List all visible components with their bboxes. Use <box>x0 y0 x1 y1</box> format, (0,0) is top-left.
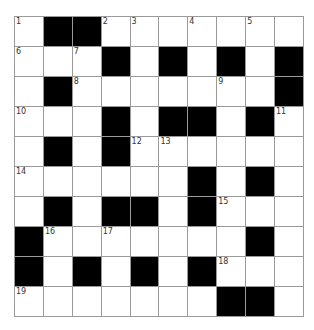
crossword-cell[interactable]: 16 <box>44 227 73 257</box>
crossword-cell[interactable] <box>15 77 44 107</box>
crossword-cell[interactable] <box>217 107 246 137</box>
block-cell <box>131 197 160 227</box>
crossword-cell[interactable] <box>73 107 102 137</box>
clue-number: 9 <box>218 77 223 87</box>
crossword-cell[interactable] <box>188 227 217 257</box>
crossword-cell[interactable] <box>44 47 73 77</box>
crossword-cell[interactable] <box>217 137 246 167</box>
crossword-cell[interactable] <box>275 17 304 47</box>
crossword-cell[interactable]: 8 <box>73 77 102 107</box>
crossword-cell[interactable]: 13 <box>159 137 188 167</box>
block-cell <box>44 77 73 107</box>
crossword-cell[interactable] <box>15 197 44 227</box>
block-cell <box>44 197 73 227</box>
block-cell <box>102 197 131 227</box>
crossword-cell[interactable]: 4 <box>188 17 217 47</box>
crossword-cell[interactable] <box>159 77 188 107</box>
block-cell <box>15 227 44 257</box>
crossword-cell[interactable] <box>44 167 73 197</box>
crossword-cell[interactable]: 2 <box>102 17 131 47</box>
crossword-cell[interactable] <box>217 227 246 257</box>
crossword-cell[interactable] <box>73 197 102 227</box>
block-cell <box>246 107 275 137</box>
crossword-cell[interactable] <box>159 227 188 257</box>
clue-number: 17 <box>103 227 113 237</box>
crossword-cell[interactable]: 18 <box>217 257 246 287</box>
crossword-cell[interactable] <box>102 167 131 197</box>
block-cell <box>217 47 246 77</box>
clue-number: 8 <box>74 77 79 87</box>
crossword-cell[interactable]: 15 <box>217 197 246 227</box>
crossword-cell[interactable] <box>131 227 160 257</box>
crossword-cell[interactable] <box>275 197 304 227</box>
clue-number: 2 <box>103 17 108 27</box>
clue-number: 14 <box>16 167 26 177</box>
block-cell <box>246 227 275 257</box>
crossword-cell[interactable] <box>246 77 275 107</box>
block-cell <box>188 107 217 137</box>
block-cell <box>159 107 188 137</box>
crossword-grid: 12345678910111213141516171819 <box>14 16 304 317</box>
crossword-cell[interactable] <box>44 257 73 287</box>
block-cell <box>73 257 102 287</box>
crossword-cell[interactable] <box>73 227 102 257</box>
crossword-cell[interactable] <box>275 287 304 317</box>
crossword-cell[interactable] <box>188 77 217 107</box>
block-cell <box>275 47 304 77</box>
crossword-cell[interactable]: 17 <box>102 227 131 257</box>
clue-number: 5 <box>247 17 252 27</box>
crossword-cell[interactable]: 7 <box>73 47 102 77</box>
crossword-cell[interactable]: 14 <box>15 167 44 197</box>
crossword-cell[interactable] <box>246 47 275 77</box>
crossword-cell[interactable] <box>131 167 160 197</box>
block-cell <box>246 287 275 317</box>
crossword-cell[interactable] <box>73 167 102 197</box>
crossword-cell[interactable] <box>275 167 304 197</box>
crossword-cell[interactable]: 6 <box>15 47 44 77</box>
clue-number: 19 <box>16 287 26 297</box>
crossword-cell[interactable] <box>159 257 188 287</box>
crossword-cell[interactable] <box>188 287 217 317</box>
crossword-cell[interactable] <box>217 167 246 197</box>
crossword-cell[interactable] <box>73 137 102 167</box>
crossword-cell[interactable] <box>217 17 246 47</box>
block-cell <box>275 77 304 107</box>
crossword-cell[interactable] <box>159 17 188 47</box>
crossword-cell[interactable] <box>246 197 275 227</box>
crossword-cell[interactable] <box>159 197 188 227</box>
crossword-cell[interactable] <box>275 227 304 257</box>
block-cell <box>73 17 102 47</box>
crossword-cell[interactable] <box>188 47 217 77</box>
crossword-cell[interactable]: 1 <box>15 17 44 47</box>
crossword-cell[interactable] <box>44 287 73 317</box>
crossword-cell[interactable] <box>275 257 304 287</box>
crossword-cell[interactable] <box>188 137 217 167</box>
crossword-cell[interactable]: 11 <box>275 107 304 137</box>
crossword-cell[interactable] <box>246 257 275 287</box>
crossword-cell[interactable]: 5 <box>246 17 275 47</box>
block-cell <box>102 47 131 77</box>
crossword-cell[interactable] <box>15 137 44 167</box>
clue-number: 4 <box>189 17 194 27</box>
crossword-cell[interactable] <box>102 287 131 317</box>
clue-number: 6 <box>16 47 21 57</box>
crossword-cell[interactable] <box>102 77 131 107</box>
crossword-cell[interactable]: 9 <box>217 77 246 107</box>
crossword-cell[interactable] <box>159 287 188 317</box>
crossword-cell[interactable] <box>44 107 73 137</box>
crossword-cell[interactable] <box>246 137 275 167</box>
crossword-cell[interactable] <box>131 287 160 317</box>
crossword-cell[interactable] <box>131 107 160 137</box>
crossword-cell[interactable] <box>131 77 160 107</box>
block-cell <box>188 167 217 197</box>
crossword-cell[interactable] <box>275 137 304 167</box>
crossword-cell[interactable]: 19 <box>15 287 44 317</box>
crossword-cell[interactable]: 12 <box>131 137 160 167</box>
crossword-cell[interactable] <box>73 287 102 317</box>
crossword-cell[interactable] <box>159 167 188 197</box>
crossword-cell[interactable] <box>131 47 160 77</box>
crossword-cell[interactable] <box>102 257 131 287</box>
crossword-cell[interactable]: 10 <box>15 107 44 137</box>
block-cell <box>246 167 275 197</box>
crossword-cell[interactable]: 3 <box>131 17 160 47</box>
